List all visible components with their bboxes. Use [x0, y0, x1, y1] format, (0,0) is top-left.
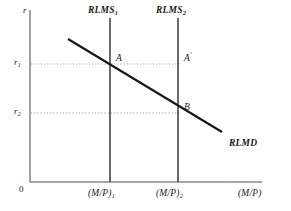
x-tick-label-mp2: (M/P)2: [156, 189, 183, 199]
r2-subscript: 2: [18, 111, 21, 117]
point-a-prime-superscript: ′: [190, 51, 192, 60]
rlms1-base: RLMS: [88, 5, 115, 15]
y-tick-label-r1: r1: [14, 58, 21, 67]
annotation-point-a-prime: A′: [184, 54, 192, 64]
annotation-point-b: B: [184, 103, 190, 113]
rlms1-subscript: 1: [115, 9, 118, 16]
supply-curve-rlms2-label: RLMS2: [156, 6, 186, 16]
y-tick-label-r2: r2: [14, 107, 21, 116]
mp2-subscript: 2: [180, 192, 183, 199]
rlms2-base: RLMS: [156, 5, 183, 15]
x-axis-label: (M/P): [238, 189, 262, 199]
supply-curve-rlms1-label: RLMS1: [88, 6, 118, 16]
demand-curve-rlmd: [68, 39, 222, 132]
mp1-subscript: 1: [112, 192, 115, 199]
r1-subscript: 1: [18, 62, 21, 68]
annotation-point-a: A: [116, 54, 122, 64]
origin-label: 0: [19, 185, 24, 194]
rlms2-subscript: 2: [183, 9, 186, 16]
mp1-base: (M/P): [88, 188, 112, 198]
money-market-chart: r RLMS1 RLMS2 r1 r2 A A′ B RLMD 0 (M/P)1…: [0, 0, 291, 211]
chart-canvas: [0, 0, 291, 211]
mp2-base: (M/P): [156, 188, 180, 198]
x-tick-label-mp1: (M/P)1: [88, 189, 115, 199]
demand-curve-rlmd-label: RLMD: [229, 139, 257, 149]
y-axis-label: r: [23, 6, 27, 15]
